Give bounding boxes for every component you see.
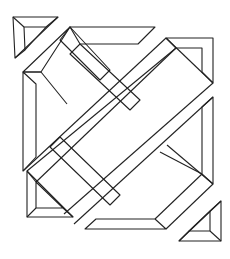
corner-triangle-bottom-right — [179, 201, 221, 241]
tile-right-lower — [160, 97, 213, 184]
center-tile-2 — [50, 137, 120, 205]
center-tile-1 — [70, 44, 140, 110]
diagonal-band-lower — [64, 83, 213, 224]
geometric-pattern — [0, 0, 230, 259]
tile-lower-left — [27, 171, 73, 217]
tile-right — [166, 38, 213, 83]
corner-triangle-top-left — [13, 17, 58, 58]
tile-bottom — [85, 174, 213, 229]
diagonal-band-upper — [23, 38, 176, 182]
